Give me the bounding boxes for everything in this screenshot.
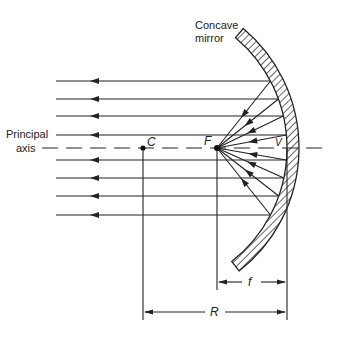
f-label: F [204,134,212,148]
center-of-curvature-dot [140,145,145,150]
concave-mirror [232,28,299,270]
axis-label-line1: Principal [6,128,48,140]
focal-point-dot [214,145,220,151]
mirror-label-line1: Concave [195,19,238,31]
concave-mirror-diagram: f R C F V Concave mirror Principal axis [0,0,338,338]
focal-length-dimension [218,280,286,285]
v-label: V [275,137,283,148]
radius-label: R [210,305,219,319]
c-label: C [147,135,156,149]
axis-label-line2: axis [16,142,36,154]
mirror-label-line2: mirror [195,32,224,44]
focal-length-label: f [248,275,253,289]
